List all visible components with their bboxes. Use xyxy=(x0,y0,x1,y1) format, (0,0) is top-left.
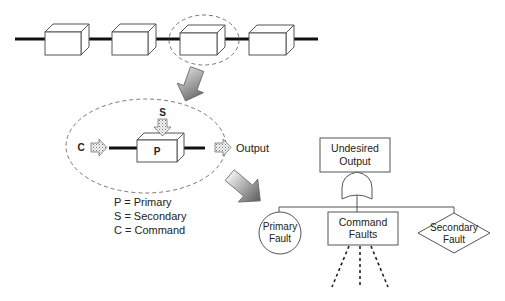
secondary-fault-event: Secondary Fault xyxy=(418,213,490,253)
top-event-line1: Undesired xyxy=(331,142,379,154)
secondary-label: S xyxy=(159,107,166,118)
component-box-4 xyxy=(249,25,294,55)
or-gate-icon xyxy=(342,172,372,199)
command-label: C xyxy=(77,142,84,153)
component-box-1 xyxy=(45,24,89,55)
legend-item-primary: P = Primary xyxy=(114,196,172,208)
command-input-arrow: C xyxy=(77,139,107,156)
secondary-fault-line2: Fault xyxy=(443,234,465,245)
primary-fault-event: Primary Fault xyxy=(259,212,301,254)
component-box-2 xyxy=(112,24,156,55)
zoom-arrow-right xyxy=(220,164,270,213)
output-arrow: Output xyxy=(215,139,269,156)
primary-fault-line2: Fault xyxy=(269,233,291,244)
component-chain xyxy=(15,15,318,65)
fault-tree-diagram: P S C Output P = Primary S = Secondary C… xyxy=(0,0,505,301)
primary-component-box: P xyxy=(137,133,184,162)
primary-label: P xyxy=(154,146,161,157)
command-faults-line2: Faults xyxy=(349,228,378,240)
continuation-lines xyxy=(332,246,388,287)
command-faults-line1: Command xyxy=(339,216,388,228)
component-box-3 xyxy=(180,25,225,55)
legend-item-command: C = Command xyxy=(114,224,185,236)
top-event-box: Undesired Output xyxy=(320,138,390,172)
top-event-line2: Output xyxy=(339,155,371,167)
secondary-fault-line1: Secondary xyxy=(430,222,478,233)
legend: P = Primary S = Secondary C = Command xyxy=(114,196,187,236)
secondary-input-arrow: S xyxy=(154,107,171,136)
legend-item-secondary: S = Secondary xyxy=(114,210,187,222)
command-faults-event: Command Faults xyxy=(328,212,398,245)
zoom-arrow-down xyxy=(172,64,210,106)
primary-fault-line1: Primary xyxy=(263,221,297,232)
output-label: Output xyxy=(236,142,269,154)
fault-tree: Undesired Output Primary Fault Command F… xyxy=(259,138,490,287)
